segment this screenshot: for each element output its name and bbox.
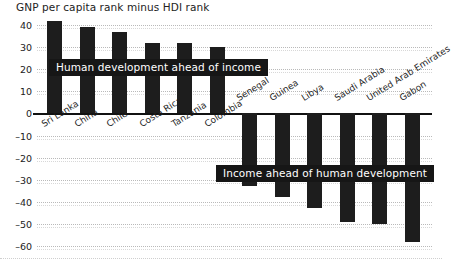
bar [177, 43, 192, 114]
y-axis-tick-label: –20 [15, 152, 32, 163]
bar [145, 43, 160, 114]
chart-title: GNP per capita rank minus HDI rank [16, 1, 210, 13]
gridline-secondary [37, 227, 432, 228]
x-axis-category-label: Chile [105, 109, 129, 129]
gridline [37, 246, 432, 247]
y-axis-tick-label: 20 [20, 64, 32, 75]
y-axis-tick-label: 0 [26, 108, 32, 119]
y-axis-tick-label: –40 [15, 196, 32, 207]
y-axis-tick-label: –10 [15, 130, 32, 141]
gridline [37, 47, 432, 48]
bar [307, 113, 322, 208]
gridline [37, 25, 432, 26]
y-axis-tick-label: 30 [20, 42, 32, 53]
y-axis-tick-label: 10 [20, 86, 32, 97]
y-axis-tick-label: 40 [20, 20, 32, 31]
annotation-income-ahead: Income ahead of human development [216, 165, 434, 182]
x-axis-category-label: Libya [300, 82, 326, 103]
gridline-secondary [37, 28, 432, 29]
bar [210, 47, 225, 113]
annotation-human-development: Human development ahead of income [49, 59, 268, 76]
y-axis-tick-label: –50 [15, 218, 32, 229]
gridline [37, 224, 432, 225]
x-axis-category-label: Senegal [235, 76, 271, 104]
gridline-secondary [37, 50, 432, 51]
gridline-secondary [37, 249, 432, 250]
bar [275, 113, 290, 197]
y-axis-tick-label: –30 [15, 174, 32, 185]
y-axis-tick-label: –60 [15, 241, 32, 252]
